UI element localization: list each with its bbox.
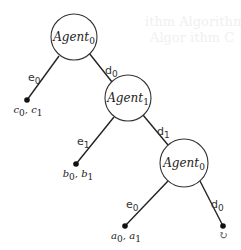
leaf-subscript: 1 bbox=[88, 172, 94, 182]
leaf-dot-b bbox=[73, 161, 79, 167]
edge-label-subscript: 1 bbox=[164, 130, 170, 140]
node-label-subscript: 1 bbox=[143, 97, 149, 107]
node-label-root: Agent0 bbox=[53, 31, 95, 46]
leaf-subscript: 1 bbox=[37, 108, 43, 118]
edge-label-subscript: 0 bbox=[35, 76, 41, 86]
edge-label-base: d bbox=[105, 64, 112, 77]
edge-label-e0-root: e0 bbox=[28, 72, 41, 86]
loop-icon: ↻ bbox=[218, 230, 227, 241]
node-label-subscript: 0 bbox=[199, 162, 205, 172]
edge-label-base: e bbox=[126, 198, 133, 211]
node-label-low: Agent0 bbox=[163, 157, 205, 172]
leaf-subscript: 1 bbox=[135, 234, 141, 244]
node-label-base: Agent bbox=[107, 91, 143, 105]
node-label-subscript: 0 bbox=[89, 36, 95, 46]
edge-label-subscript: 1 bbox=[84, 140, 90, 150]
leaf-subscript: 0 bbox=[69, 172, 75, 182]
edge-label-d0-low: d0 bbox=[211, 199, 224, 213]
leaf-subscript: 0 bbox=[117, 234, 123, 244]
leaf-dot-a bbox=[122, 223, 128, 229]
tree-graphics bbox=[0, 0, 241, 250]
node-label-base: Agent bbox=[163, 156, 199, 170]
edge-label-subscript: 0 bbox=[133, 203, 139, 213]
leaf-subscript: 0 bbox=[19, 108, 25, 118]
edge-label-subscript: 0 bbox=[112, 69, 118, 79]
edge-label-e0-low: e0 bbox=[126, 199, 139, 213]
edge-label-base: d bbox=[211, 198, 218, 211]
leaf-label-a: a0, a1 bbox=[111, 231, 141, 244]
node-label-mid: Agent1 bbox=[107, 92, 149, 107]
edge-label-e1: e1 bbox=[77, 136, 90, 150]
edge-label-subscript: 0 bbox=[218, 203, 224, 213]
leaf-label-b: b0, b1 bbox=[63, 169, 94, 182]
edge-label-base: d bbox=[157, 125, 164, 138]
edge-label-d1: d1 bbox=[157, 126, 170, 140]
edge-label-base: e bbox=[28, 71, 35, 84]
node-label-base: Agent bbox=[53, 30, 89, 44]
edge-label-base: e bbox=[77, 135, 84, 148]
game-tree-diagram: ithm Algorithm B Algor ithm C Agent0 Age… bbox=[0, 0, 241, 250]
leaf-label-c: c0, c1 bbox=[13, 105, 42, 118]
edge-label-d0-root: d0 bbox=[105, 65, 118, 79]
leaf-dot-loop bbox=[220, 223, 226, 229]
leaf-dot-c bbox=[24, 97, 30, 103]
